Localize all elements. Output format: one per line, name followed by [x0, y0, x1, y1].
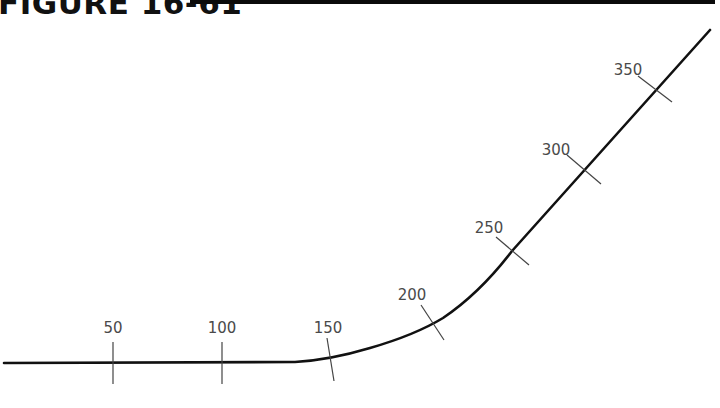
station-label: 50	[103, 319, 122, 337]
station-tick	[327, 338, 334, 381]
station-label: 100	[208, 319, 237, 337]
station-200: 200	[398, 286, 444, 340]
station-tick	[496, 237, 529, 265]
station-150: 150	[314, 319, 343, 381]
station-label: 250	[475, 219, 504, 237]
alignment-centerline	[4, 30, 710, 363]
station-label: 300	[542, 141, 571, 159]
station-tick	[421, 305, 444, 340]
station-label: 350	[614, 61, 643, 79]
station-label: 200	[398, 286, 427, 304]
station-label: 150	[314, 319, 343, 337]
station-ticks: 50100150200250300350	[103, 61, 672, 384]
station-50: 50	[103, 319, 122, 384]
station-100: 100	[208, 319, 237, 384]
station-tick	[567, 155, 601, 184]
alignment-diagram: 50100150200250300350	[0, 0, 720, 408]
